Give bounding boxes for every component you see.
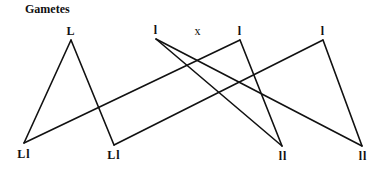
line-l4-to-ll-2 — [323, 40, 362, 146]
offspring-1: Ll — [17, 147, 30, 162]
line-L-to-Ll-1 — [24, 40, 71, 143]
offspring-2: Ll — [107, 148, 120, 163]
parent-gamete-4: l — [321, 24, 325, 39]
line-l3-to-ll-1 — [240, 40, 282, 146]
parent-gamete-1: L — [66, 24, 75, 39]
offspring-4: ll — [359, 149, 368, 164]
line-l3-to-Ll-1 — [24, 40, 240, 143]
line-L-to-Ll-2 — [71, 40, 114, 145]
parent-gamete-2: l — [154, 23, 158, 38]
cross-symbol: x — [195, 24, 202, 39]
line-l2-to-ll-1 — [156, 39, 282, 146]
cross-lines — [0, 0, 385, 171]
line-l2-to-ll-2 — [156, 39, 362, 146]
offspring-3: ll — [279, 149, 288, 164]
parent-gamete-3: l — [238, 24, 242, 39]
